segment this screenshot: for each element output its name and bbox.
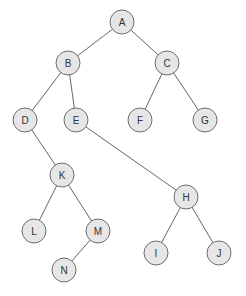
- node-label: F: [137, 115, 143, 126]
- node-label: N: [60, 265, 67, 276]
- node-label: K: [59, 170, 66, 181]
- node-label: G: [201, 115, 209, 126]
- node-d: D: [13, 108, 37, 132]
- node-k: K: [50, 163, 74, 187]
- tree-diagram: ABCDEFGKHLMIJN: [0, 0, 246, 296]
- node-label: C: [163, 58, 170, 69]
- node-j: J: [207, 241, 231, 265]
- edge-e-h: [76, 120, 186, 197]
- node-h: H: [174, 185, 198, 209]
- node-label: B: [65, 58, 72, 69]
- node-label: A: [119, 17, 126, 28]
- node-label: D: [21, 115, 28, 126]
- node-e: E: [64, 108, 88, 132]
- tree-edges: [25, 22, 219, 270]
- node-label: L: [31, 226, 37, 237]
- node-g: G: [193, 108, 217, 132]
- node-label: M: [94, 226, 102, 237]
- node-a: A: [110, 10, 134, 34]
- node-label: H: [182, 192, 189, 203]
- node-label: E: [73, 115, 80, 126]
- node-c: C: [155, 51, 179, 75]
- node-m: M: [86, 219, 110, 243]
- node-b: B: [56, 51, 80, 75]
- tree-nodes: ABCDEFGKHLMIJN: [13, 10, 231, 282]
- node-label: J: [217, 248, 222, 259]
- node-i: I: [144, 241, 168, 265]
- node-label: I: [155, 248, 158, 259]
- node-l: L: [22, 219, 46, 243]
- node-f: F: [128, 108, 152, 132]
- node-n: N: [52, 258, 76, 282]
